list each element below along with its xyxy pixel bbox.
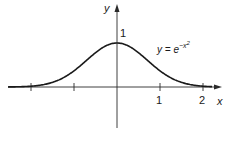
y-tick-label-1: 1 <box>120 28 126 39</box>
x-axis-arrow-icon <box>214 85 222 90</box>
y-axis-label: y <box>104 3 110 14</box>
equation-lhs: y = e <box>157 44 179 55</box>
equation-power: 2 <box>187 40 190 46</box>
equation-exponent: −x2 <box>179 42 190 49</box>
x-tick-label-2: 2 <box>199 95 205 106</box>
y-axis-arrow-icon <box>115 4 120 12</box>
chart-canvas <box>0 0 240 142</box>
x-axis-label: x <box>217 96 223 107</box>
x-tick-label-1: 1 <box>156 95 162 106</box>
function-equation-label: y = e−x2 <box>157 40 190 55</box>
